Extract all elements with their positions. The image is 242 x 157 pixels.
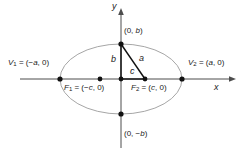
focus-left-point bbox=[98, 77, 103, 82]
segment-b-label: b bbox=[111, 55, 116, 64]
covertex-bottom-label: (0, −b) bbox=[124, 130, 147, 138]
diagram-canvas bbox=[0, 0, 242, 157]
segment-c-label: c bbox=[130, 67, 135, 76]
covertex-bottom-label-post: ) bbox=[145, 129, 148, 138]
vertex-right-label-suffix: , 0) bbox=[213, 58, 225, 67]
focus-left-label-suffix: , 0) bbox=[93, 83, 105, 92]
vertex-right-point bbox=[179, 76, 184, 81]
x-axis-label: x bbox=[214, 83, 219, 92]
y-axis-label: y bbox=[112, 2, 117, 11]
vertex-left-point bbox=[57, 76, 62, 81]
covertex-top-label-pre: (0, bbox=[124, 26, 136, 35]
covertex-top-point bbox=[118, 41, 123, 46]
focus-right-point bbox=[143, 77, 148, 82]
y-axis-arrowhead bbox=[118, 8, 124, 15]
focus-left-label: F1 = (−c, 0) bbox=[64, 84, 104, 92]
focus-left-label-eq: = (− bbox=[72, 83, 88, 92]
covertex-bottom-label-pre: (0, − bbox=[124, 129, 140, 138]
center-point bbox=[119, 77, 124, 82]
covertex-bottom-point bbox=[118, 111, 123, 116]
vertex-left-label-eq: = (− bbox=[17, 58, 33, 67]
vertex-right-label: V2 = (a, 0) bbox=[188, 59, 224, 67]
ellipse-diagram: y x V1 = (−a, 0) V2 = (a, 0) F1 = (−c, 0… bbox=[0, 0, 242, 157]
x-axis-arrowhead bbox=[229, 76, 236, 82]
segment-a-label: a bbox=[139, 54, 144, 63]
focus-right-label-eq: = ( bbox=[139, 83, 151, 92]
covertex-top-label: (0, b) bbox=[124, 27, 143, 35]
focus-right-label: F2 = (c, 0) bbox=[131, 84, 167, 92]
vertex-right-label-eq: = ( bbox=[197, 58, 209, 67]
focus-right-label-suffix: , 0) bbox=[155, 83, 167, 92]
vertex-left-label: V1 = (−a, 0) bbox=[8, 59, 49, 67]
vertex-left-label-suffix: , 0) bbox=[38, 58, 50, 67]
covertex-top-label-post: ) bbox=[140, 26, 143, 35]
